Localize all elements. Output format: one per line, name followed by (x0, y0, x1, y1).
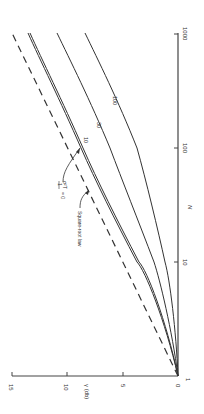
arrowhead-icon (85, 190, 89, 195)
series-sigma-zero (28, 33, 178, 376)
annotation-sigma-den: σ²T (62, 181, 68, 189)
curve-label-30: 30 (96, 122, 102, 128)
y-axis-label: γ (db) (84, 384, 90, 399)
series-square-root-law (12, 33, 178, 376)
annotation-sqrt-law: Square-root law (77, 211, 83, 247)
annotation-sigma-eq: = 0 (60, 192, 66, 199)
x-tick-label: 1 (185, 378, 191, 382)
annotation-arrow-sigma (63, 148, 80, 182)
chart-container: 1 10 100 1000 N 0 5 10 15 γ (db) 10 30 1… (0, 0, 204, 414)
series-30 (57, 33, 178, 376)
x-tick-label: 10 (182, 259, 188, 266)
y-tick-label: 10 (63, 384, 69, 391)
y-tick-label: 15 (8, 384, 14, 391)
y-tick-label: 5 (120, 384, 126, 388)
x-tick-label: 100 (182, 143, 188, 154)
x-tick-label: 1000 (182, 27, 188, 41)
y-tick-label: 0 (175, 384, 181, 388)
curve-label-10: 10 (83, 137, 89, 143)
x-axis-label: N (187, 205, 193, 210)
chart-svg: 1 10 100 1000 N 0 5 10 15 γ (db) 10 30 1… (0, 0, 204, 414)
curve-label-100: 100 (112, 96, 118, 105)
